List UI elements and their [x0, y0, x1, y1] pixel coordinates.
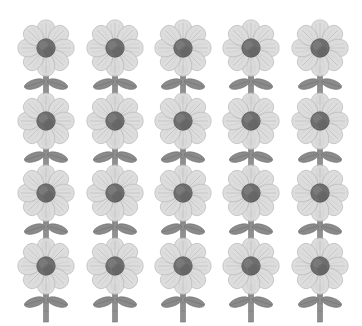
flower-item [283, 236, 357, 322]
flower-head [18, 20, 74, 76]
flower-center-group [242, 39, 260, 57]
leaf-right [115, 77, 138, 92]
flower-center-group [174, 184, 192, 202]
flower-head [87, 93, 143, 149]
flower-item [146, 236, 220, 322]
flower-illustration [146, 236, 220, 322]
flower-center-group [37, 184, 55, 202]
flower-center-shadow [43, 119, 53, 129]
flower-center-shadow [248, 119, 258, 129]
leaf-right [183, 77, 206, 92]
leaf-left [228, 295, 251, 310]
flower-center-group [106, 257, 124, 275]
flower-head [292, 238, 348, 294]
flower-head [18, 93, 74, 149]
flower-center-shadow [112, 264, 122, 274]
flower-illustration [283, 236, 357, 322]
leaf-left [23, 222, 46, 237]
leaf-left [23, 295, 46, 310]
flower-center-group [242, 112, 260, 130]
leaf-right [320, 77, 343, 92]
flower-center-shadow [180, 264, 190, 274]
flower-head [292, 165, 348, 221]
leaf-left [228, 222, 251, 237]
leaf-left [160, 77, 183, 92]
leaf-right [46, 295, 69, 310]
flower-head [223, 238, 279, 294]
flower-head [292, 93, 348, 149]
flower-center-shadow [43, 46, 53, 56]
flower-center-group [37, 112, 55, 130]
flower-head [155, 20, 211, 76]
flower-item [9, 236, 83, 322]
flower-center-shadow [317, 46, 327, 56]
flower-head [155, 165, 211, 221]
leaf-left [297, 295, 320, 310]
flower-head [87, 20, 143, 76]
flower-head [18, 165, 74, 221]
flower-center-shadow [317, 264, 327, 274]
flower-illustration [78, 236, 152, 322]
flower-center-shadow [248, 264, 258, 274]
flower-center-group [311, 257, 329, 275]
flower-center-shadow [248, 191, 258, 201]
flower-head [87, 165, 143, 221]
leaf-left [92, 295, 115, 310]
leaf-left [160, 295, 183, 310]
flower-head [155, 93, 211, 149]
flower-center-shadow [43, 191, 53, 201]
leaf-right [46, 222, 69, 237]
flower-head [18, 238, 74, 294]
flower-item [214, 236, 288, 322]
leaf-left [228, 77, 251, 92]
flower-center-group [311, 39, 329, 57]
flower-grid-canvas [0, 0, 362, 326]
flower-head [292, 20, 348, 76]
flower-center-group [174, 257, 192, 275]
leaf-left [160, 222, 183, 237]
flower-center-group [311, 112, 329, 130]
flower-center-group [242, 184, 260, 202]
flower-center-group [37, 39, 55, 57]
leaf-left [297, 222, 320, 237]
leaf-left [92, 77, 115, 92]
leaf-right [183, 295, 206, 310]
flower-center-shadow [248, 46, 258, 56]
leaf-right [115, 295, 138, 310]
leaf-right [320, 222, 343, 237]
flower-center-shadow [317, 191, 327, 201]
flower-center-shadow [112, 46, 122, 56]
flower-head [223, 20, 279, 76]
flower-center-group [311, 184, 329, 202]
flower-item [78, 236, 152, 322]
flower-center-shadow [180, 46, 190, 56]
leaf-left [23, 77, 46, 92]
flower-center-shadow [112, 119, 122, 129]
flower-head [155, 238, 211, 294]
flower-center-group [174, 112, 192, 130]
leaf-right [251, 295, 274, 310]
leaf-right [46, 77, 69, 92]
leaf-left [297, 77, 320, 92]
flower-center-group [106, 112, 124, 130]
flower-center-group [37, 257, 55, 275]
flower-head [87, 238, 143, 294]
flower-illustration [214, 236, 288, 322]
flower-center-group [106, 39, 124, 57]
flower-center-shadow [317, 119, 327, 129]
flower-illustration [9, 236, 83, 322]
leaf-left [92, 222, 115, 237]
leaf-right [251, 222, 274, 237]
flower-center-group [174, 39, 192, 57]
leaf-right [251, 77, 274, 92]
flower-center-shadow [180, 119, 190, 129]
leaf-right [115, 222, 138, 237]
leaf-right [320, 295, 343, 310]
flower-center-shadow [180, 191, 190, 201]
flower-head [223, 165, 279, 221]
flower-center-shadow [43, 264, 53, 274]
leaf-right [183, 222, 206, 237]
flower-center-shadow [112, 191, 122, 201]
flower-center-group [242, 257, 260, 275]
flower-head [223, 93, 279, 149]
